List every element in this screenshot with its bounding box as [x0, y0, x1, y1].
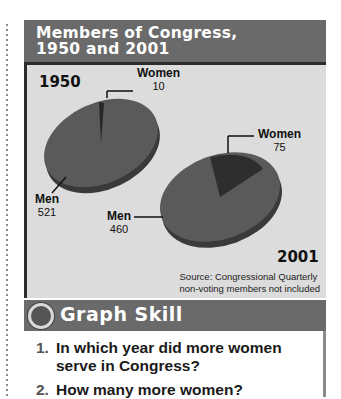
chart-panel: 1950 Women10 Men521 Women75 Men460 2001 …	[24, 62, 326, 298]
graph-card: Members of Congress, 1950 and 2001	[24, 20, 326, 397]
chart-header: Members of Congress, 1950 and 2001	[24, 20, 326, 62]
graph-skill-title: Graph Skill	[60, 303, 183, 325]
year-2001-label: 2001	[277, 248, 319, 266]
men-1950-label: Men521	[35, 193, 59, 219]
dotted-margin-line	[6, 24, 8, 397]
men-2001-label: Men460	[107, 210, 131, 236]
question-item: 1.In which year did more women serve in …	[36, 339, 306, 375]
circle-bullet-icon	[28, 303, 54, 329]
question-item: 2.How many more women?	[36, 381, 306, 399]
graph-skill-header: Graph Skill	[24, 300, 326, 331]
source-note: Source: Congressional Quarterly non-voti…	[180, 271, 320, 295]
women-2001-label: Women75	[258, 128, 301, 154]
year-1950-label: 1950	[39, 73, 81, 91]
women-1950-label: Women10	[137, 67, 180, 93]
pie-2001	[147, 136, 294, 263]
question-list: 1.In which year did more women serve in …	[24, 331, 326, 397]
chart-title: Members of Congress, 1950 and 2001	[36, 25, 237, 57]
